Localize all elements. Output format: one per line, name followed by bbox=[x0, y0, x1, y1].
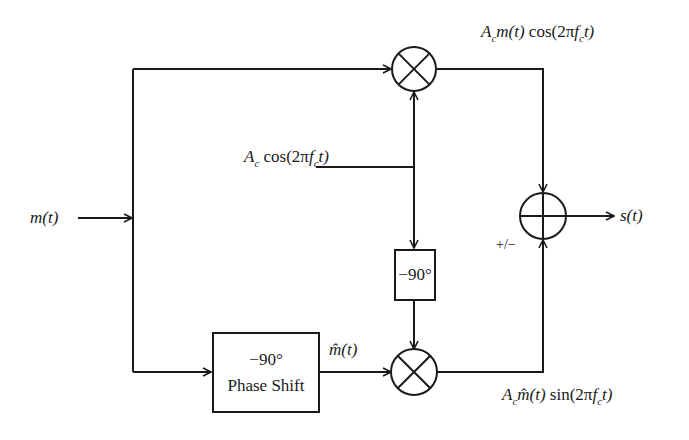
wiring bbox=[0, 0, 689, 440]
carrier-fn: cos(2π bbox=[264, 147, 309, 166]
bottom-tail: t) bbox=[602, 385, 612, 404]
carrier-phase-shift-block: −90° bbox=[394, 249, 436, 301]
top-sig: m(t) bbox=[496, 22, 524, 41]
bottom-amp: A bbox=[502, 385, 512, 404]
hilbert-output-label: m̂(t) bbox=[329, 341, 357, 358]
top-amp: A bbox=[481, 22, 491, 41]
carrier-shift-degrees: −90° bbox=[398, 265, 431, 285]
output-signal-label: s(t) bbox=[620, 207, 643, 224]
bottom-product-label: Acm̂(t) sin(2πfct) bbox=[502, 386, 612, 407]
top-tail: t) bbox=[584, 22, 594, 41]
top-fn: cos(2π bbox=[529, 22, 574, 41]
bottom-fn: sin(2π bbox=[550, 385, 593, 404]
top-product-label: Acm(t) cos(2πfct) bbox=[481, 23, 594, 44]
phase-shift-degrees: −90° bbox=[249, 350, 282, 370]
phase-shift-title: Phase Shift bbox=[228, 376, 305, 396]
summer-sign-label: +/− bbox=[496, 238, 516, 252]
carrier-amp-sub: c bbox=[254, 157, 259, 169]
carrier-amp: A bbox=[244, 147, 254, 166]
input-signal-label: m(t) bbox=[30, 209, 58, 226]
phase-shift-block: −90° Phase Shift bbox=[212, 332, 320, 413]
bottom-sig: m̂(t) bbox=[517, 385, 545, 404]
carrier-tail: t) bbox=[319, 147, 329, 166]
carrier-label: Ac cos(2πfct) bbox=[244, 148, 329, 169]
